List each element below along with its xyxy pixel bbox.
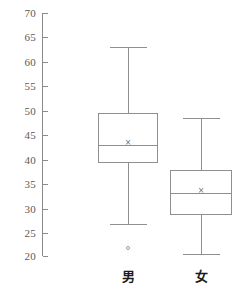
y-tick-label-65: 65 bbox=[10, 32, 36, 43]
y-tick-label-70: 70 bbox=[10, 8, 36, 19]
mean-marker-male: × bbox=[123, 139, 133, 147]
y-tick-label-50: 50 bbox=[10, 106, 36, 117]
y-tick-mark-40 bbox=[43, 160, 48, 161]
y-tick-label-40: 40 bbox=[10, 155, 36, 166]
y-tick-mark-50 bbox=[43, 111, 48, 112]
category-label-male: 男 bbox=[108, 270, 148, 284]
y-tick-mark-25 bbox=[43, 233, 48, 234]
upper-whisker-cap-female bbox=[183, 118, 220, 119]
y-tick-label-20: 20 bbox=[10, 251, 36, 262]
upper-whisker-stem-male bbox=[128, 47, 129, 113]
y-tick-mark-65 bbox=[43, 37, 48, 38]
category-label-female: 女 bbox=[181, 270, 221, 284]
y-tick-label-30: 30 bbox=[10, 204, 36, 215]
y-tick-mark-60 bbox=[43, 62, 48, 63]
lower-whisker-cap-female bbox=[183, 254, 220, 255]
lower-whisker-cap-male bbox=[110, 224, 147, 225]
lower-whisker-stem-female bbox=[201, 215, 202, 254]
upper-whisker-cap-male bbox=[110, 47, 147, 48]
y-tick-label-60: 60 bbox=[10, 57, 36, 68]
y-tick-mark-45 bbox=[43, 135, 48, 136]
outlier-point-male bbox=[126, 246, 130, 250]
y-tick-mark-55 bbox=[43, 86, 48, 87]
upper-whisker-stem-female bbox=[201, 118, 202, 170]
y-tick-label-45: 45 bbox=[10, 130, 36, 141]
y-tick-label-25: 25 bbox=[10, 228, 36, 239]
y-tick-mark-30 bbox=[43, 209, 48, 210]
lower-whisker-stem-male bbox=[128, 163, 129, 224]
y-tick-label-35: 35 bbox=[10, 179, 36, 190]
y-tick-mark-20 bbox=[43, 256, 48, 257]
y-tick-label-55: 55 bbox=[10, 81, 36, 92]
y-tick-mark-35 bbox=[43, 184, 48, 185]
mean-marker-female: × bbox=[196, 187, 206, 195]
y-tick-mark-70 bbox=[43, 13, 48, 14]
boxplot-chart: 70 65 60 55 50 45 40 35 30 25 20 × 男 × 女 bbox=[0, 0, 247, 300]
